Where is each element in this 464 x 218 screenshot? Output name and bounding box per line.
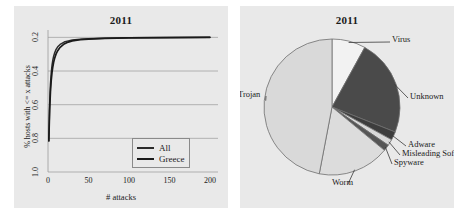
cdf-xaxis-title: # attacks — [14, 192, 228, 202]
pie-label-unknown: Unknown — [410, 91, 444, 101]
pie-label-worm: Worm — [332, 177, 353, 187]
cdf-ytick-0.8: 0.8 — [31, 129, 40, 147]
cdf-xtick-50: 50 — [84, 176, 92, 185]
cdf-ytick-0.6: 0.6 — [31, 96, 40, 114]
cdf-xtick-100: 100 — [123, 176, 135, 185]
cdf-xtick-0: 0 — [46, 176, 50, 185]
cdf-xtick-150: 150 — [163, 176, 175, 185]
pie-label-spyware: Spyware — [394, 157, 424, 167]
cdf-yaxis-title: % hosts with <= x attacks — [23, 53, 32, 161]
cdf-legend: All Greece — [132, 138, 190, 168]
cdf-ytick-1.0: 1.0 — [31, 163, 40, 181]
cdf-xtick-200: 200 — [204, 176, 216, 185]
panel-pie-chart: 2011 Virus Unknown Adware Misleading Sof… — [240, 6, 454, 208]
legend-swatch-greece-icon — [137, 158, 154, 160]
pie-label-virus: Virus — [392, 34, 410, 44]
legend-label-all: All — [159, 143, 171, 153]
legend-item-all: All — [137, 142, 184, 153]
legend-swatch-all-icon — [137, 147, 154, 149]
figure-2011-attacks: 2011 1.0 0.8 0.6 0.4 0.2 0 50 100 150 20… — [0, 0, 464, 218]
panel-cdf-chart: 2011 1.0 0.8 0.6 0.4 0.2 0 50 100 150 20… — [14, 6, 228, 208]
cdf-ytick-0.4: 0.4 — [31, 62, 40, 80]
legend-label-greece: Greece — [159, 154, 184, 164]
legend-item-greece: Greece — [137, 153, 184, 164]
cdf-ytick-0.2: 0.2 — [31, 28, 40, 46]
pie-label-trojan: Trojan — [240, 89, 260, 99]
